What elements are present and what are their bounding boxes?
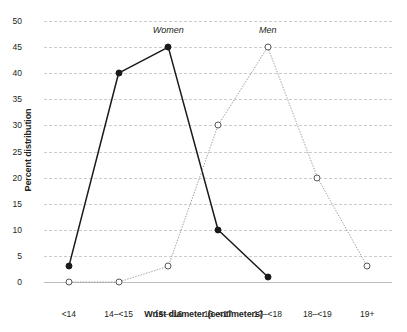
series-line-women [69, 47, 268, 277]
chart-container: Percent distribution Wrist diameter (cen… [0, 0, 407, 332]
series-label-men: Men [259, 25, 277, 35]
y-tick-label-5: 5 [2, 251, 22, 261]
x-tick-label-5: 18–<19 [303, 309, 332, 319]
y-tick-label-35: 35 [2, 94, 22, 104]
data-point-women-1 [115, 70, 122, 77]
y-tick-label-50: 50 [2, 16, 22, 26]
data-lines [44, 21, 392, 282]
data-point-men-6 [364, 263, 371, 270]
y-axis-title: Percent distribution [23, 70, 33, 230]
x-tick-label-4: 17–<18 [253, 309, 282, 319]
x-tick-label-0: <14 [62, 309, 76, 319]
y-tick-label-40: 40 [2, 68, 22, 78]
x-tick-label-6: 19+ [360, 309, 374, 319]
y-tick-label-0: 0 [2, 277, 22, 287]
y-tick-label-20: 20 [2, 173, 22, 183]
x-tick-label-1: 14–<15 [104, 309, 133, 319]
gridline-0 [44, 282, 392, 283]
series-label-women: Women [153, 25, 184, 35]
plot-area: 05101520253035404550 <1414–<1515–<1616–<… [44, 21, 392, 282]
x-tick-label-2: 15–<16 [154, 309, 183, 319]
data-point-men-4 [264, 44, 271, 51]
y-tick-label-10: 10 [2, 225, 22, 235]
data-point-women-2 [165, 44, 172, 51]
y-tick-label-15: 15 [2, 199, 22, 209]
data-point-men-1 [115, 279, 122, 286]
y-tick-label-25: 25 [2, 147, 22, 157]
data-point-women-4 [264, 273, 271, 280]
x-tick-label-3: 16–<17 [204, 309, 233, 319]
data-point-men-5 [314, 174, 321, 181]
data-point-men-3 [215, 122, 222, 129]
data-point-women-3 [215, 226, 222, 233]
y-tick-label-30: 30 [2, 120, 22, 130]
series-line-men [69, 47, 367, 282]
y-tick-label-45: 45 [2, 42, 22, 52]
data-point-men-0 [65, 279, 72, 286]
data-point-men-2 [165, 263, 172, 270]
data-point-women-0 [65, 263, 72, 270]
